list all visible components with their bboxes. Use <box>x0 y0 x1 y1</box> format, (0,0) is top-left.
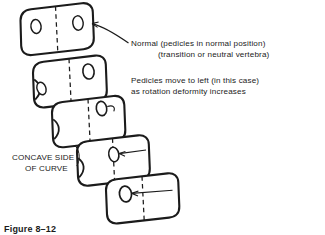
annotation-concave-side: CONCAVE SIDE OF CURVE <box>12 152 74 174</box>
annotation-pedicles-line-1: Pedicles move to left (in this case) <box>131 75 259 86</box>
annotation-concave-line-2: OF CURVE <box>12 163 74 174</box>
vertebra-1 <box>21 3 94 55</box>
figure-container: Normal (pedicles in normal position) (tr… <box>0 0 325 235</box>
leader-normal-curve <box>92 24 129 43</box>
annotation-normal-line-1: Normal (pedicles in normal position) <box>131 38 269 49</box>
leader-normal <box>92 22 129 43</box>
vertebral-rotation-diagram <box>0 0 325 235</box>
annotation-concave-line-1: CONCAVE SIDE <box>12 152 74 163</box>
annotation-normal-line-2: (transition or neutral vertebra) <box>131 49 269 60</box>
vertebra-5 <box>106 173 179 223</box>
figure-caption: Figure 8–12 <box>4 224 56 234</box>
vertebra-5-body <box>106 173 179 223</box>
annotation-pedicles-line-2: as rotation deformity increases <box>131 86 259 97</box>
annotation-normal: Normal (pedicles in normal position) (tr… <box>131 38 269 60</box>
annotation-pedicles-move-left: Pedicles move to left (in this case) as … <box>131 75 259 97</box>
